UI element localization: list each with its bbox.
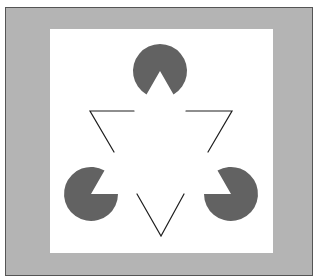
kanizsa-figure <box>0 0 321 279</box>
